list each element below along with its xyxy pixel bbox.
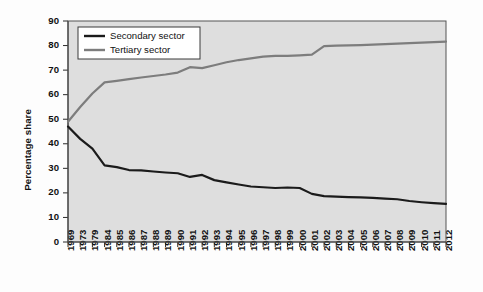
x-tick-label: 2008 (394, 229, 405, 251)
x-tick-label: 1973 (77, 230, 88, 251)
percentage-share-line-chart: 0102030405060708090 19691973197919841985… (0, 0, 483, 292)
x-tick-label: 1996 (248, 230, 259, 251)
x-tick-label: 1986 (126, 230, 137, 251)
x-tick-label: 2012 (443, 230, 454, 251)
x-tick-label: 2004 (345, 229, 356, 251)
y-tick-label: 50 (48, 113, 59, 124)
y-tick-label: 60 (48, 88, 59, 99)
x-tick-label: 2002 (321, 230, 332, 251)
y-axis-title: Percentage share (22, 109, 33, 191)
legend-label-secondary: Secondary sector (110, 30, 185, 41)
x-axis-ticks: 1969197319791984198519861987198819891990… (65, 229, 454, 251)
x-tick-label: 1995 (236, 229, 247, 251)
x-tick-label: 1988 (150, 229, 161, 251)
x-tick-label: 1992 (199, 230, 210, 251)
y-tick-label: 30 (48, 162, 59, 173)
y-tick-label: 90 (48, 15, 59, 26)
x-tick-label: 1985 (114, 229, 125, 251)
y-tick-label: 80 (48, 39, 59, 50)
x-tick-label: 2005 (358, 229, 369, 251)
x-tick-label: 1989 (162, 230, 173, 251)
x-tick-label: 1998 (272, 229, 283, 251)
x-tick-label: 1993 (211, 230, 222, 251)
chart-container: 0102030405060708090 19691973197919841985… (0, 0, 483, 292)
y-tick-label: 0 (54, 236, 59, 247)
y-tick-label: 70 (48, 64, 59, 75)
x-tick-label: 2003 (333, 230, 344, 251)
legend-label-tertiary: Tertiary sector (110, 44, 171, 55)
x-tick-label: 2010 (419, 230, 430, 251)
x-tick-label: 1991 (187, 229, 198, 251)
x-tick-label: 2001 (309, 229, 320, 251)
x-tick-label: 2011 (431, 230, 442, 251)
x-tick-label: 2009 (406, 230, 417, 251)
y-tick-label: 40 (48, 137, 59, 148)
x-tick-label: 2007 (382, 230, 393, 251)
x-tick-label: 1990 (175, 230, 186, 251)
x-tick-label: 1997 (260, 230, 271, 251)
x-tick-label: 1999 (284, 230, 295, 251)
y-tick-label: 20 (48, 186, 59, 197)
x-tick-label: 2006 (370, 230, 381, 251)
chart-legend: Secondary sector Tertiary sector (78, 27, 200, 59)
x-tick-label: 1984 (102, 229, 113, 251)
x-tick-label: 1979 (89, 230, 100, 251)
x-tick-label: 1987 (138, 230, 149, 251)
y-tick-label: 10 (48, 211, 59, 222)
x-tick-label: 1994 (223, 229, 234, 251)
x-tick-label: 1969 (65, 230, 76, 251)
x-tick-label: 2000 (297, 230, 308, 251)
